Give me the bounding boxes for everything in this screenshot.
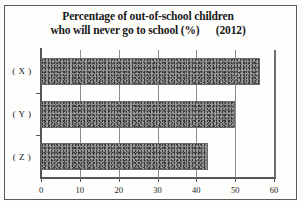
x-tick-label-0: 0 xyxy=(26,185,56,195)
bar-3 xyxy=(41,143,208,170)
chart-title: Percentage of out-of-school children who… xyxy=(12,9,284,37)
x-tick-label-20: 20 xyxy=(104,185,134,195)
bar-1 xyxy=(41,58,260,85)
x-tick-label-10: 10 xyxy=(65,185,95,195)
x-tick-60 xyxy=(274,178,275,182)
x-tick-label-40: 40 xyxy=(181,185,211,195)
x-tick-40 xyxy=(196,178,197,182)
category-label-3: ( Z ) xyxy=(5,152,39,162)
plot-area xyxy=(41,50,274,178)
chart-title-line-1: Percentage of out-of-school children xyxy=(12,9,284,23)
x-tick-10 xyxy=(80,178,81,182)
x-tick-label-50: 50 xyxy=(220,185,250,195)
bar-2 xyxy=(41,101,235,128)
x-tick-50 xyxy=(235,178,236,182)
plot-right-border xyxy=(274,50,276,178)
category-label-1: ( X ) xyxy=(5,66,39,76)
chart-figure: Percentage of out-of-school children who… xyxy=(0,0,302,205)
x-tick-label-30: 30 xyxy=(143,185,173,195)
y-tick-2 xyxy=(36,135,41,136)
y-tick-1 xyxy=(36,93,41,94)
category-label-2: ( Y ) xyxy=(5,109,39,119)
x-tick-30 xyxy=(158,178,159,182)
x-tick-20 xyxy=(119,178,120,182)
chart-title-line-2: who will never go to school (%) (2012) xyxy=(12,23,284,37)
x-tick-0 xyxy=(41,178,42,182)
x-tick-label-60: 60 xyxy=(259,185,289,195)
